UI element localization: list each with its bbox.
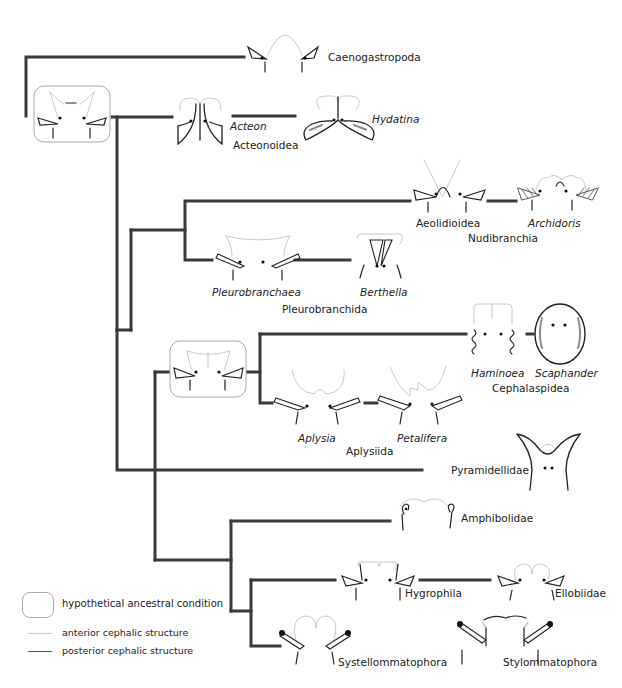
head-icon-archidoris xyxy=(518,175,598,210)
head-icon-pleurobranchaea xyxy=(216,236,300,280)
legend-anterior-label: anterior cephalic structure xyxy=(62,627,188,639)
label-aeolidioidea: Aeolidioidea xyxy=(416,217,480,229)
label-caenogastropoda: Caenogastropoda xyxy=(328,51,421,63)
legend-ancestral-label: hypothetical ancestral condition xyxy=(62,598,223,610)
label-systellommatophora: Systellommatophora xyxy=(338,656,447,668)
head-icon-petalifera xyxy=(378,366,462,424)
label-petalifera: Petalifera xyxy=(397,432,447,444)
head-icon-aplysia xyxy=(274,370,360,424)
label-acteon: Acteon xyxy=(230,120,267,132)
phylogenetic-tree xyxy=(0,0,622,688)
legend-posterior-label: posterior cephalic structure xyxy=(62,645,193,657)
legend-posterior-line-icon xyxy=(28,651,52,652)
label-nudibranchia: Nudibranchia xyxy=(468,232,538,244)
head-icon-berthella xyxy=(357,234,402,278)
label-aplysiida: Aplysiida xyxy=(346,445,393,457)
head-icon-amphibolidae xyxy=(400,499,454,530)
label-amphibolidae: Amphibolidae xyxy=(461,512,533,524)
label-pyramidellidae: Pyramidellidae xyxy=(451,464,529,476)
ancestral-box-1 xyxy=(34,86,110,142)
head-icon-haminoea xyxy=(472,304,514,354)
label-pleurobranchaea: Pleurobranchaea xyxy=(212,286,301,298)
legend-anterior-line-icon xyxy=(28,633,52,634)
label-haminoea: Haminoea xyxy=(471,367,524,379)
label-ellobiidae: Ellobiidae xyxy=(555,587,606,599)
head-icon-hygrophila xyxy=(342,562,414,600)
head-icon-caenogastropoda xyxy=(248,35,318,72)
head-icon-scaphander xyxy=(535,304,585,364)
label-stylommatophora: Stylommatophora xyxy=(503,656,597,668)
head-icon-acteon xyxy=(178,98,222,144)
label-aplysia: Aplysia xyxy=(298,432,336,444)
label-archidoris: Archidoris xyxy=(528,217,581,229)
label-hygrophila: Hygrophila xyxy=(405,587,462,599)
ancestral-box-2 xyxy=(170,341,246,397)
label-berthella: Berthella xyxy=(360,286,407,298)
head-icon-aeolidioidea xyxy=(414,160,485,212)
label-hydatina: Hydatina xyxy=(372,113,419,125)
legend-ancestral-box-icon xyxy=(22,592,54,618)
head-icon-pyramidellidae xyxy=(517,434,580,490)
head-icon-hydatina xyxy=(304,96,374,140)
label-scaphander: Scaphander xyxy=(535,367,598,379)
label-pleurobranchida: Pleurobranchida xyxy=(282,303,367,315)
label-acteonoidea: Acteonoidea xyxy=(233,139,298,151)
label-cephalaspidea: Cephalaspidea xyxy=(492,382,570,394)
